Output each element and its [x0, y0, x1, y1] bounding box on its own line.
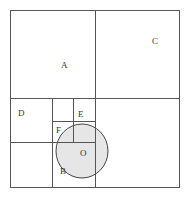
label-f: F	[56, 125, 61, 135]
label-b: B	[60, 166, 66, 176]
label-d: D	[18, 108, 25, 118]
label-c: C	[152, 36, 158, 46]
quadtree-diagram: A C D E F O B	[0, 0, 189, 197]
label-a: A	[61, 60, 68, 70]
label-o: O	[80, 148, 87, 158]
label-e: E	[78, 109, 84, 119]
